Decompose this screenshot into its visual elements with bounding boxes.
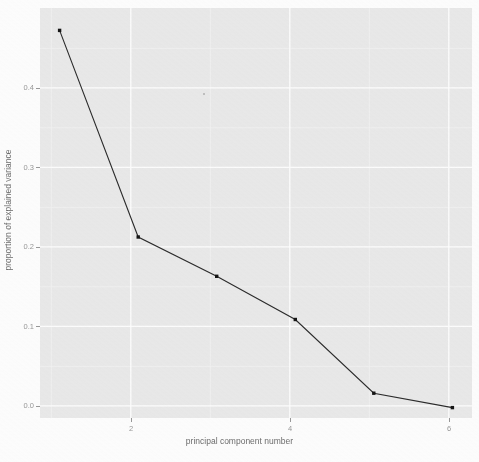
ytick-mark (36, 247, 40, 248)
xtick-label-6: 6 (437, 425, 461, 433)
ytick-label-1: 0.1 (10, 323, 34, 331)
ytick-mark (36, 406, 40, 407)
ytick-label-2: 0.2 (10, 243, 34, 251)
scree-points (58, 29, 454, 410)
scree-line (60, 30, 453, 407)
ytick-mark (36, 326, 40, 327)
ytick-label-3: 0.3 (10, 164, 34, 172)
data-point (58, 29, 61, 32)
ytick-label-0: 0.0 (10, 402, 34, 410)
x-axis-title: principal component number (0, 436, 479, 446)
data-point (451, 406, 454, 409)
data-point (215, 275, 218, 278)
grid-major-vertical (131, 8, 449, 418)
xtick-label-4: 4 (278, 425, 302, 433)
xtick-mark (131, 418, 132, 422)
scan-speck (203, 93, 205, 95)
scree-plot-figure: 0.0 0.1 0.2 0.3 0.4 2 4 6 principal comp… (0, 0, 479, 462)
grid-major-horizontal (40, 88, 472, 406)
data-point (294, 318, 297, 321)
ytick-mark (36, 167, 40, 168)
grid-minor-vertical (51, 8, 369, 418)
xtick-mark (449, 418, 450, 422)
ytick-label-4: 0.4 (10, 84, 34, 92)
data-point (372, 392, 375, 395)
xtick-label-2: 2 (119, 425, 143, 433)
plot-canvas (0, 0, 479, 462)
grid-minor-horizontal (40, 48, 472, 366)
xtick-mark (290, 418, 291, 422)
y-axis-title: proportion of explained variance (3, 140, 13, 280)
data-point (137, 235, 140, 238)
ytick-mark (36, 88, 40, 89)
